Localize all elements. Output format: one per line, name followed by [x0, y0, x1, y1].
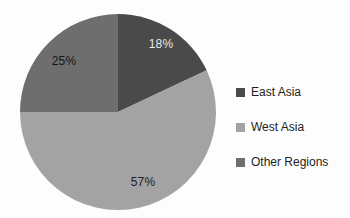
legend-item-west-asia[interactable]: West Asia [236, 118, 350, 136]
pie-chart: 18%57%25% East Asia West Asia Other Regi… [0, 0, 350, 218]
pie-slice-value-label: 18% [149, 37, 174, 51]
legend-swatch-icon [236, 88, 245, 97]
pie-slice-group [20, 14, 216, 210]
legend-item-east-asia[interactable]: East Asia [236, 83, 350, 101]
pie-plot-area: 18%57%25% [0, 0, 236, 218]
legend-item-other-regions[interactable]: Other Regions [236, 153, 350, 171]
legend-swatch-icon [236, 123, 245, 132]
legend-item-label: West Asia [251, 120, 304, 134]
legend-swatch-icon [236, 158, 245, 167]
legend-item-label: East Asia [251, 85, 301, 99]
pie-slice-value-label: 25% [52, 54, 77, 68]
legend-item-label: Other Regions [251, 155, 328, 169]
chart-legend: East Asia West Asia Other Regions [236, 83, 350, 188]
pie-svg [0, 0, 236, 218]
pie-slice-value-label: 57% [131, 175, 156, 189]
